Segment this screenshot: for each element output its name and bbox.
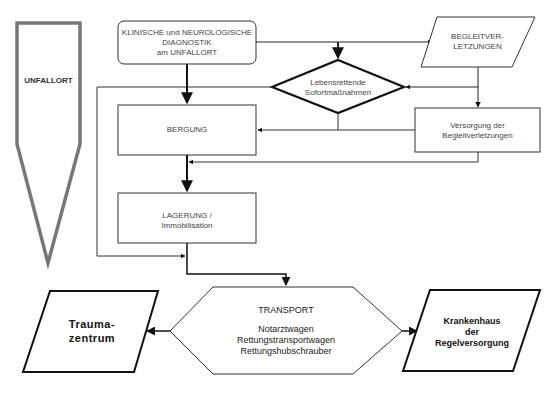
trauma-line1: Trauma- — [40, 317, 144, 331]
sofort-line1: Lebensrettende — [288, 78, 388, 88]
unfallort-shape — [17, 23, 80, 263]
unfallort-label: UNFALLORT — [17, 76, 80, 86]
krankenhaus-line3: Regelversorgung — [420, 338, 524, 349]
versorgung-label: Versorgung der Begleitverletzungen — [415, 121, 540, 141]
transport-line1: Notarztwagen — [190, 324, 382, 335]
begleitverletzungen-label: BEGLEITVER- LETZUNGEN — [430, 32, 525, 52]
diagnostik-line1: KLINISCHE und NEUROLOGISCHE — [118, 28, 256, 38]
diagnostik-line2: DIAGNOSTIK — [118, 38, 256, 48]
lagerung-line2: Immobilisation — [118, 221, 256, 231]
sofort-line2: Sofortmaßnahmen — [288, 88, 388, 98]
versorgung-line2: Begleitverletzungen — [415, 131, 540, 141]
lagerung-label: LAGERUNG / Immobilisation — [118, 211, 256, 231]
begleit-line1: BEGLEITVER- — [430, 32, 525, 42]
transport-title: TRANSPORT — [190, 305, 382, 316]
krankenhaus-label: Krankenhaus der Regelversorgung — [420, 316, 524, 349]
transport-label: TRANSPORT Notarztwagen Rettungstransport… — [190, 305, 382, 357]
krankenhaus-line1: Krankenhaus — [420, 316, 524, 327]
begleit-line2: LETZUNGEN — [430, 42, 525, 52]
lagerung-line1: LAGERUNG / — [118, 211, 256, 221]
diagnostik-line3: am UNFALLORT — [118, 48, 256, 58]
bergung-label: BERGUNG — [118, 125, 256, 135]
trauma-line2: zentrum — [40, 331, 144, 345]
transport-line2: Rettungstransportwagen — [190, 335, 382, 346]
diagnostik-label: KLINISCHE und NEUROLOGISCHE DIAGNOSTIK a… — [118, 28, 256, 58]
traumazentrum-label: Trauma- zentrum — [40, 317, 144, 345]
krankenhaus-line2: der — [420, 327, 524, 338]
transport-line3: Rettungshubschrauber — [190, 346, 382, 357]
versorgung-line1: Versorgung der — [415, 121, 540, 131]
sofortmassnahmen-label: Lebensrettende Sofortmaßnahmen — [288, 78, 388, 98]
